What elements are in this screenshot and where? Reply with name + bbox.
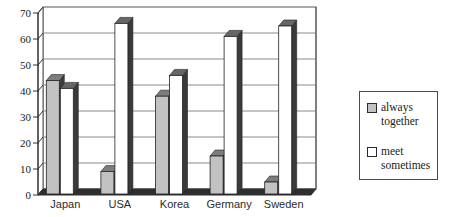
chart-screenshot: 010203040506070JapanUSAKoreaGermanySwede… xyxy=(0,0,450,217)
x-axis-label-japan: Japan xyxy=(50,198,80,210)
bar-germany-meet-sometimes xyxy=(224,36,237,194)
legend-box: always together meet sometimes xyxy=(359,91,438,180)
legend-item-meet-sometimes: meet sometimes xyxy=(367,145,432,172)
bar-germany-always-together xyxy=(210,156,223,194)
y-axis-label-60: 60 xyxy=(20,33,32,45)
x-axis-label-usa: USA xyxy=(109,198,132,210)
x-axis-label-germany: Germany xyxy=(206,198,252,210)
y-axis-label-40: 40 xyxy=(20,85,32,97)
y-axis-label-50: 50 xyxy=(20,59,32,71)
bar-korea-always-together xyxy=(156,96,169,194)
bar-sweden-meet-sometimes-side xyxy=(292,20,297,194)
legend-item-always-together: always together xyxy=(367,101,432,128)
bar-japan-meet-sometimes-side xyxy=(73,82,78,194)
y-axis-label-20: 20 xyxy=(20,137,32,149)
legend-label-meet-sometimes: meet sometimes xyxy=(381,145,432,172)
plot-left-wall xyxy=(38,7,43,195)
bar-japan-always-together xyxy=(46,81,59,194)
bar-germany-meet-sometimes-side xyxy=(237,30,242,194)
bar-japan-meet-sometimes xyxy=(60,88,73,194)
bar-korea-meet-sometimes-side xyxy=(183,69,188,194)
bar-usa-always-together xyxy=(101,172,114,194)
y-axis-label-30: 30 xyxy=(20,111,32,123)
legend-label-always-together: always together xyxy=(381,101,432,128)
bar-korea-meet-sometimes xyxy=(170,75,183,194)
y-axis-label-10: 10 xyxy=(20,163,32,175)
x-axis-label-korea: Korea xyxy=(160,198,190,210)
x-axis-label-sweden: Sweden xyxy=(264,198,304,210)
y-axis-label-70: 70 xyxy=(20,7,32,19)
bar-usa-meet-sometimes xyxy=(115,23,128,194)
y-axis-label-0: 0 xyxy=(26,189,32,201)
legend-swatch-meet-sometimes xyxy=(367,147,377,157)
bar-usa-meet-sometimes-side xyxy=(128,17,133,194)
bar-sweden-always-together xyxy=(265,182,278,194)
bar-sweden-meet-sometimes xyxy=(279,26,292,194)
legend-swatch-always-together xyxy=(367,103,377,113)
